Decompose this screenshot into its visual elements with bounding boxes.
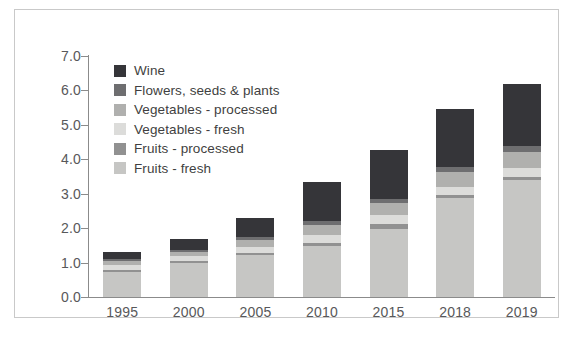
legend-swatch-icon — [114, 84, 126, 96]
y-axis-tick — [81, 90, 89, 91]
bar-segment — [236, 240, 274, 247]
bar-1995[interactable] — [103, 252, 141, 297]
bar-segment — [370, 229, 408, 297]
x-axis-tick-label: 1995 — [84, 304, 160, 320]
legend-item[interactable]: Flowers, seeds & plants — [114, 81, 344, 101]
bar-segment — [503, 152, 541, 169]
x-axis-tick-label: 2018 — [417, 304, 493, 320]
bar-2015[interactable] — [370, 150, 408, 297]
bar-segment — [303, 182, 341, 222]
bar-segment — [503, 168, 541, 177]
legend-item-label: Wine — [134, 63, 165, 78]
legend-item-label: Vegetables - processed — [134, 102, 277, 117]
legend-item-label: Fruits - fresh — [134, 161, 211, 176]
legend-swatch-icon — [114, 104, 126, 116]
y-axis-tick — [81, 56, 89, 57]
bar-segment — [436, 172, 474, 186]
legend-item[interactable]: Vegetables - processed — [114, 100, 344, 120]
legend-swatch-icon — [114, 123, 126, 135]
y-axis-tick — [81, 159, 89, 160]
x-axis-tick-label: 2005 — [217, 304, 293, 320]
y-axis-labels: 7.06.05.04.03.02.01.00.0 — [15, 10, 81, 337]
bar-segment — [436, 109, 474, 166]
y-axis-tick-label: 2.0 — [25, 220, 81, 236]
bar-segment — [103, 272, 141, 297]
x-axis-tick-label: 2000 — [151, 304, 227, 320]
bar-2019[interactable] — [503, 84, 541, 297]
bar-2018[interactable] — [436, 109, 474, 297]
bar-segment — [236, 255, 274, 297]
bar-2000[interactable] — [170, 239, 208, 298]
bar-segment — [503, 84, 541, 147]
legend-item[interactable]: Vegetables - fresh — [114, 120, 344, 140]
legend-item-label: Fruits - processed — [134, 141, 244, 156]
x-axis-tick-label: 2010 — [284, 304, 360, 320]
legend-item-label: Flowers, seeds & plants — [134, 83, 280, 98]
y-axis-tick-label: 4.0 — [25, 151, 81, 167]
y-axis-tick-label: 1.0 — [25, 255, 81, 271]
x-axis-line — [88, 297, 555, 298]
legend-swatch-icon — [114, 65, 126, 77]
bar-segment — [503, 180, 541, 297]
bar-segment — [236, 218, 274, 237]
bar-segment — [436, 198, 474, 297]
y-axis-tick-label: 5.0 — [25, 117, 81, 133]
bar-segment — [170, 239, 208, 250]
y-axis-tick-label: 3.0 — [25, 186, 81, 202]
y-axis-tick — [81, 263, 89, 264]
bar-segment — [370, 215, 408, 225]
legend-item-label: Vegetables - fresh — [134, 122, 245, 137]
bar-segment — [170, 263, 208, 297]
bar-segment — [436, 187, 474, 196]
bar-segment — [303, 225, 341, 235]
y-axis-tick — [81, 297, 89, 298]
x-axis-tick-label: 2019 — [484, 304, 560, 320]
chart-legend: WineFlowers, seeds & plantsVegetables - … — [114, 61, 344, 178]
bar-segment — [370, 150, 408, 199]
bar-segment — [303, 235, 341, 243]
y-axis-tick-label: 7.0 — [25, 48, 81, 64]
legend-swatch-icon — [114, 143, 126, 155]
y-axis-tick — [81, 125, 89, 126]
bar-2005[interactable] — [236, 218, 274, 297]
bar-2010[interactable] — [303, 182, 341, 297]
y-axis-tick — [81, 194, 89, 195]
y-axis-tick-label: 6.0 — [25, 82, 81, 98]
legend-item[interactable]: Fruits - fresh — [114, 159, 344, 179]
legend-swatch-icon — [114, 162, 126, 174]
legend-item[interactable]: Wine — [114, 61, 344, 81]
x-axis-tick-label: 2015 — [351, 304, 427, 320]
bar-segment — [303, 246, 341, 297]
legend-item[interactable]: Fruits - processed — [114, 139, 344, 159]
chart-frame: 7.06.05.04.03.02.01.00.0 199520002005201… — [14, 9, 559, 318]
y-axis-tick-label: 0.0 — [25, 289, 81, 305]
y-axis-tick — [81, 228, 89, 229]
bar-segment — [370, 203, 408, 214]
